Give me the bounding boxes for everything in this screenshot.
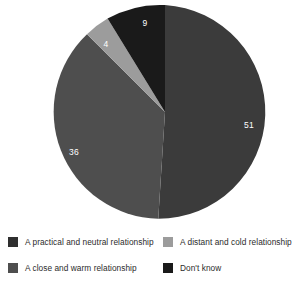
pie-chart-figure: 51 36 4 9 A practical and neutral relati… xyxy=(0,0,306,285)
legend-item-label: A practical and neutral relationship xyxy=(25,237,154,247)
legend-row-2: A close and warm relationship Don't know xyxy=(0,259,306,277)
pie-label-close-and-warm: 36 xyxy=(69,147,79,157)
legend-swatch-icon xyxy=(163,237,173,247)
legend-item-distant-and-cold[interactable]: A distant and cold relationship xyxy=(160,233,306,251)
legend-item-close-and-warm[interactable]: A close and warm relationship xyxy=(0,259,160,277)
pie-slices xyxy=(54,5,266,219)
pie-chart-svg: 51 36 4 9 xyxy=(0,0,306,228)
pie-label-distant-and-cold: 4 xyxy=(104,39,109,49)
legend-swatch-icon xyxy=(8,263,18,273)
legend-item-label: A close and warm relationship xyxy=(25,263,137,273)
pie-label-dont-know: 9 xyxy=(143,18,148,28)
legend-item-practical-and-neutral[interactable]: A practical and neutral relationship xyxy=(0,233,160,251)
legend-item-label: Don't know xyxy=(180,263,221,273)
legend-row-1: A practical and neutral relationship A d… xyxy=(0,233,306,251)
pie-label-practical-and-neutral: 51 xyxy=(244,120,254,130)
chart-legend: A practical and neutral relationship A d… xyxy=(0,229,306,285)
legend-item-dont-know[interactable]: Don't know xyxy=(160,259,306,277)
legend-swatch-icon xyxy=(163,263,173,273)
pie-slice-practical-and-neutral[interactable] xyxy=(158,5,265,219)
legend-swatch-icon xyxy=(8,237,18,247)
chart-plot-area: 51 36 4 9 xyxy=(0,0,306,228)
legend-item-label: A distant and cold relationship xyxy=(180,237,292,247)
